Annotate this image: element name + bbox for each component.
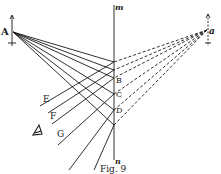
ray-f-label: F xyxy=(50,111,56,121)
image-label: a xyxy=(209,26,215,36)
point-c-label: C xyxy=(116,90,122,99)
ray-e-label: E xyxy=(43,94,50,104)
eye-icon xyxy=(33,125,42,135)
point-b-label: B xyxy=(116,76,122,85)
mirror-top-label: m xyxy=(115,2,123,12)
reflection-diagram: m n A a B C D E F G Fig. 9 xyxy=(0,0,221,174)
ray-g-label: G xyxy=(57,129,64,139)
figure-caption: Fig. 9 xyxy=(100,164,127,174)
object-label: A xyxy=(0,26,9,37)
point-d-label: D xyxy=(116,106,122,115)
